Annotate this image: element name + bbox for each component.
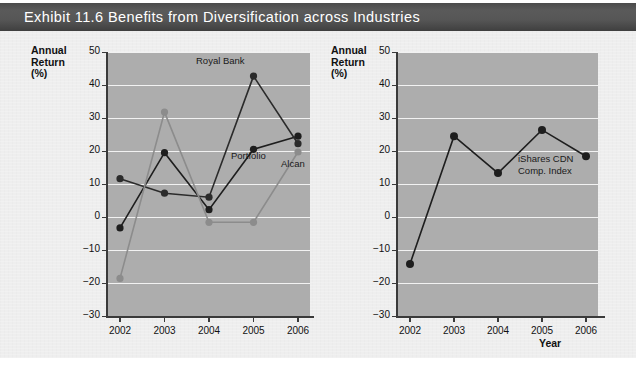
x-tick xyxy=(208,316,210,322)
y-tick-label: −20 xyxy=(66,276,100,287)
data-point xyxy=(450,132,458,140)
right-chart: Annual Return (%) iShares CDN Comp. Inde… xyxy=(320,31,636,358)
x-tick-label: 2006 xyxy=(276,325,320,336)
y-tick xyxy=(392,184,398,186)
y-tick xyxy=(102,217,108,219)
x-tick-label: 2003 xyxy=(432,325,476,336)
y-tick-label: 40 xyxy=(356,78,390,89)
y-tick xyxy=(392,217,398,219)
data-point xyxy=(205,194,212,201)
data-point xyxy=(294,140,301,147)
x-tick xyxy=(253,316,255,322)
data-point xyxy=(494,169,502,177)
data-point xyxy=(294,148,301,155)
y-tick xyxy=(102,184,108,186)
left-chart: Annual Return (%) Royal Bank Portfolio A… xyxy=(0,31,320,358)
x-tick xyxy=(541,316,543,322)
y-tick-label: −20 xyxy=(356,276,390,287)
data-point xyxy=(205,206,212,213)
y-tick xyxy=(102,85,108,87)
x-tick-label: 2005 xyxy=(232,325,276,336)
y-tick-label: 40 xyxy=(66,78,100,89)
x-tick-label: 2003 xyxy=(143,325,187,336)
x-tick-label: 2005 xyxy=(520,325,564,336)
y-tick-label: 50 xyxy=(66,45,100,56)
label-ishares-line2: Comp. Index xyxy=(518,165,572,176)
y-tick xyxy=(392,85,398,87)
label-ishares: iShares CDN Comp. Index xyxy=(518,153,573,177)
x-tick xyxy=(119,316,121,322)
y-tick xyxy=(392,151,398,153)
y-tick xyxy=(392,283,398,285)
y-tick-label: −30 xyxy=(356,309,390,320)
left-chart-svg xyxy=(0,31,320,358)
right-x-axis-title: Year xyxy=(539,337,561,349)
exhibit-header-bar: Exhibit 11.6 Benefits from Diversificati… xyxy=(0,3,636,31)
y-tick xyxy=(102,151,108,153)
x-tick xyxy=(453,316,455,322)
data-point xyxy=(161,109,168,116)
y-tick xyxy=(102,52,108,54)
data-point xyxy=(582,152,590,160)
exhibit-title: Exhibit 11.6 Benefits from Diversificati… xyxy=(24,9,420,25)
x-tick xyxy=(409,316,411,322)
x-tick-label: 2002 xyxy=(98,325,142,336)
y-tick xyxy=(392,250,398,252)
x-tick-label: 2002 xyxy=(388,325,432,336)
y-tick-label: 20 xyxy=(66,144,100,155)
y-tick-label: 20 xyxy=(356,144,390,155)
data-point xyxy=(538,126,546,134)
y-tick xyxy=(102,118,108,120)
x-tick xyxy=(164,316,166,322)
y-tick-label: 10 xyxy=(66,177,100,188)
y-tick xyxy=(392,52,398,54)
y-tick xyxy=(102,316,108,318)
x-tick-label: 2004 xyxy=(476,325,520,336)
data-point xyxy=(250,219,257,226)
y-tick-label: 0 xyxy=(66,210,100,221)
x-tick-label: 2006 xyxy=(564,325,608,336)
x-tick xyxy=(585,316,587,322)
y-tick-label: 0 xyxy=(356,210,390,221)
data-point xyxy=(161,190,168,197)
y-tick-label: −10 xyxy=(356,243,390,254)
y-tick-label: 30 xyxy=(66,111,100,122)
series-line-0 xyxy=(120,136,298,228)
series-line-0 xyxy=(410,130,586,264)
y-tick xyxy=(102,250,108,252)
data-point xyxy=(406,260,414,268)
x-tick xyxy=(497,316,499,322)
data-point xyxy=(116,275,123,282)
label-ishares-line1: iShares CDN xyxy=(518,153,573,164)
label-alcan: Alcan xyxy=(281,159,305,170)
x-tick-label: 2004 xyxy=(187,325,231,336)
data-point xyxy=(250,73,257,80)
data-point xyxy=(205,219,212,226)
y-tick xyxy=(392,118,398,120)
data-point xyxy=(161,149,168,156)
label-royal-bank: Royal Bank xyxy=(196,56,245,67)
data-point xyxy=(116,224,123,231)
data-point xyxy=(116,175,123,182)
x-tick xyxy=(297,316,299,322)
y-tick-label: 30 xyxy=(356,111,390,122)
y-tick-label: −10 xyxy=(66,243,100,254)
exhibit-figure: Exhibit 11.6 Benefits from Diversificati… xyxy=(0,0,636,369)
y-tick xyxy=(102,283,108,285)
y-tick-label: −30 xyxy=(66,309,100,320)
y-tick-label: 50 xyxy=(356,45,390,56)
y-tick xyxy=(392,316,398,318)
label-portfolio: Portfolio xyxy=(231,151,266,162)
y-tick-label: 10 xyxy=(356,177,390,188)
